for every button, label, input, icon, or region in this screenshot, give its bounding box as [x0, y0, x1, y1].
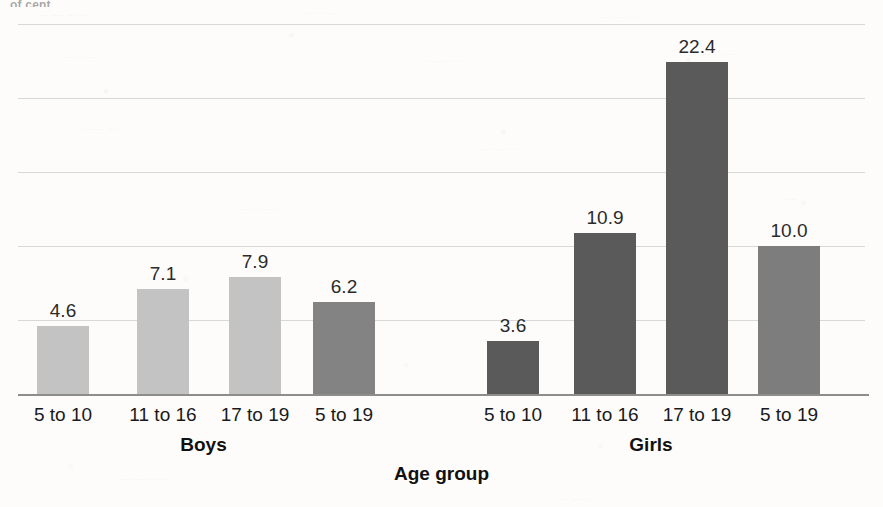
bar-rect: [313, 302, 375, 394]
bar-value-label: 7.9: [242, 251, 268, 273]
gridline-25: [18, 24, 865, 25]
plot-area: 4.67.17.96.23.610.922.410.0: [18, 24, 865, 395]
bar-rect: [37, 326, 89, 394]
bar-rect: [137, 289, 189, 394]
category-label-girls-5-to-10: 5 to 10: [484, 404, 542, 426]
bar-girls-5-to-10: 3.6: [487, 341, 539, 394]
bar-rect: [574, 233, 636, 394]
category-label-boys-17-to-19: 17 to 19: [221, 404, 290, 426]
bar-value-label: 10.9: [587, 207, 624, 229]
bar-boys-5-to-19: 6.2: [313, 302, 375, 394]
category-label-boys-5-to-19: 5 to 19: [315, 404, 373, 426]
x-axis-title: Age group: [0, 463, 883, 485]
category-label-girls-5-to-19: 5 to 19: [760, 404, 818, 426]
bar-boys-17-to-19: 7.9: [229, 277, 281, 394]
bar-value-label: 22.4: [679, 36, 716, 58]
group-label-girls: Girls: [629, 434, 672, 456]
bar-boys-11-to-16: 7.1: [137, 289, 189, 394]
bar-rect: [758, 246, 820, 394]
bar-chart: 4.67.17.96.23.610.922.410.0 5 to 1011 to…: [0, 0, 883, 507]
bar-rect: [487, 341, 539, 394]
bar-girls-17-to-19: 22.4: [666, 62, 728, 394]
category-label-girls-11-to-16: 11 to 16: [571, 404, 638, 426]
gridline-20: [18, 98, 865, 99]
bar-value-label: 7.1: [150, 263, 176, 285]
bar-value-label: 6.2: [331, 276, 357, 298]
category-label-boys-5-to-10: 5 to 10: [34, 404, 92, 426]
bar-value-label: 3.6: [500, 315, 526, 337]
x-axis-line: [18, 394, 869, 396]
bar-value-label: 4.6: [50, 300, 76, 322]
category-label-girls-17-to-19: 17 to 19: [663, 404, 732, 426]
bar-girls-11-to-16: 10.9: [574, 233, 636, 394]
bar-rect: [666, 62, 728, 394]
bar-value-label: 10.0: [771, 220, 808, 242]
bar-girls-5-to-19: 10.0: [758, 246, 820, 394]
bar-boys-5-to-10: 4.6: [37, 326, 89, 394]
gridline-10: [18, 246, 865, 247]
group-label-boys: Boys: [180, 434, 226, 456]
gridline-15: [18, 172, 865, 173]
bar-rect: [229, 277, 281, 394]
category-label-boys-11-to-16: 11 to 16: [129, 404, 196, 426]
